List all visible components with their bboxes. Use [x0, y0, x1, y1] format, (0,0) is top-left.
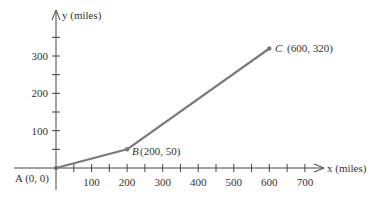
point-c-letter: C	[275, 42, 283, 54]
y-axis-label: y (miles)	[62, 9, 102, 22]
x-tick-label: 500	[226, 176, 243, 188]
x-tick-label: 300	[154, 176, 171, 188]
point-b-coords: (200, 50)	[140, 145, 181, 158]
chart: 100 200 300 400 500 600 700 100 200 300 …	[0, 0, 382, 198]
x-tick-label: 200	[119, 176, 136, 188]
point-c-coords: (600, 320)	[287, 42, 333, 55]
point-a-label: A (0, 0)	[15, 172, 49, 185]
x-tick-label: 600	[261, 176, 278, 188]
point-b	[125, 147, 129, 151]
point-a	[54, 166, 58, 170]
y-tick-label: 100	[32, 125, 49, 137]
x-tick-labels: 100 200 300 400 500 600 700	[83, 176, 313, 188]
x-axis-label: x (miles)	[327, 162, 367, 175]
x-tick-label: 400	[190, 176, 207, 188]
y-tick-labels: 100 200 300	[32, 50, 49, 137]
y-tick-label: 300	[32, 50, 49, 62]
axes	[14, 10, 324, 190]
point-b-letter: B	[132, 145, 139, 157]
x-tick-label: 700	[297, 176, 314, 188]
x-tick-label: 100	[83, 176, 100, 188]
y-tick-label: 200	[32, 87, 49, 99]
point-c	[267, 46, 271, 50]
